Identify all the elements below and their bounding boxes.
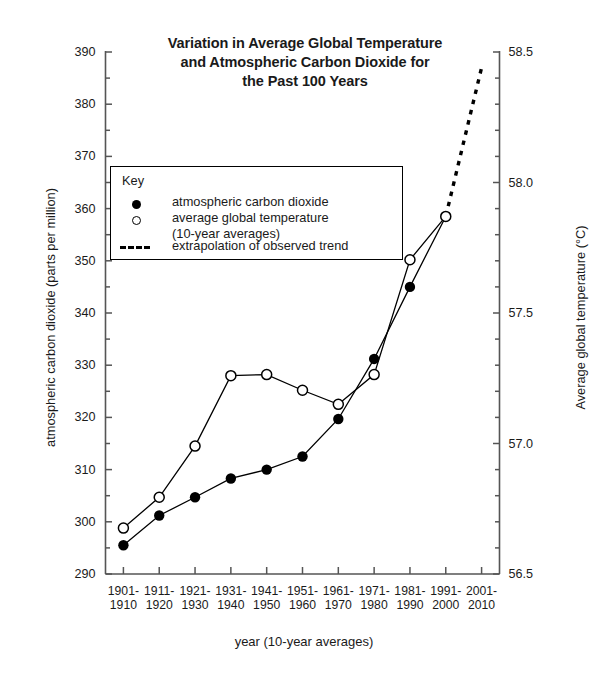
x-axis-tick-label: 2001-2010: [455, 584, 509, 613]
x-axis-tick-label-line-1: 2001-: [455, 584, 509, 598]
datapoint-average-global-temperature: [369, 370, 379, 380]
y-axis-left-tick-label: 290: [54, 567, 96, 581]
datapoint-carbon-dioxide: [190, 492, 200, 502]
legend-item-co2: atmospheric carbon dioxide: [172, 194, 329, 210]
y-axis-right-tick-label: 57.5: [509, 306, 553, 320]
series-line-average-global-temperature: [123, 216, 445, 528]
datapoint-average-global-temperature: [262, 370, 272, 380]
y-axis-left-tick-label: 320: [54, 410, 96, 424]
series-line-atmospheric-carbon-dioxide: [123, 216, 445, 545]
y-axis-right-tick-label: 58.5: [509, 45, 553, 59]
datapoint-average-global-temperature: [441, 211, 451, 221]
datapoint-carbon-dioxide: [369, 354, 379, 364]
y-axis-left-tick-label: 390: [54, 45, 96, 59]
datapoint-carbon-dioxide: [226, 473, 236, 483]
datapoint-carbon-dioxide: [405, 282, 415, 292]
y-axis-left-tick-label: 360: [54, 202, 96, 216]
chart-figure: Variation in Average Global Temperature …: [0, 0, 607, 681]
datapoint-average-global-temperature: [226, 371, 236, 381]
x-axis-tick-label-line-2: 2010: [455, 598, 509, 612]
y-axis-right-tick-label: 56.5: [509, 567, 553, 581]
datapoint-carbon-dioxide: [154, 510, 164, 520]
datapoint-average-global-temperature: [405, 255, 415, 265]
y-axis-left-tick-label: 370: [54, 149, 96, 163]
y-axis-left-tick-label: 340: [54, 306, 96, 320]
datapoint-average-global-temperature: [154, 492, 164, 502]
datapoint-carbon-dioxide: [261, 464, 271, 474]
datapoint-carbon-dioxide: [333, 414, 343, 424]
legend-item-extrapolation: extrapolation of observed trend: [172, 238, 348, 254]
legend-key-box: Key atmospheric carbon dioxide average g…: [110, 166, 403, 260]
legend-open-circle-icon: [132, 216, 141, 225]
y-axis-right-tick-label: 58.0: [509, 176, 553, 190]
datapoint-carbon-dioxide: [297, 451, 307, 461]
datapoint-average-global-temperature: [190, 441, 200, 451]
legend-dashed-line-icon: [120, 246, 150, 249]
legend-title: Key: [122, 173, 144, 188]
y-axis-left-tick-label: 350: [54, 254, 96, 268]
y-axis-left-tick-label: 330: [54, 358, 96, 372]
legend-item-temperature-line-1: average global temperature: [172, 210, 329, 226]
y-axis-right-tick-label: 57.0: [509, 437, 553, 451]
legend-filled-circle-icon: [132, 200, 141, 209]
y-axis-left-tick-label: 380: [54, 97, 96, 111]
y-axis-left-tick-label: 300: [54, 515, 96, 529]
datapoint-carbon-dioxide: [118, 540, 128, 550]
datapoint-average-global-temperature: [298, 385, 308, 395]
datapoint-average-global-temperature: [333, 399, 343, 409]
series-line-extrapolation: [446, 68, 482, 217]
datapoint-average-global-temperature: [118, 523, 128, 533]
y-axis-left-tick-label: 310: [54, 463, 96, 477]
